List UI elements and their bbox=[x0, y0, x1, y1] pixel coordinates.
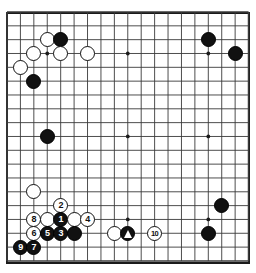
go-diagram-root: 28146531097 bbox=[0, 0, 256, 273]
go-board-border bbox=[6, 12, 250, 264]
